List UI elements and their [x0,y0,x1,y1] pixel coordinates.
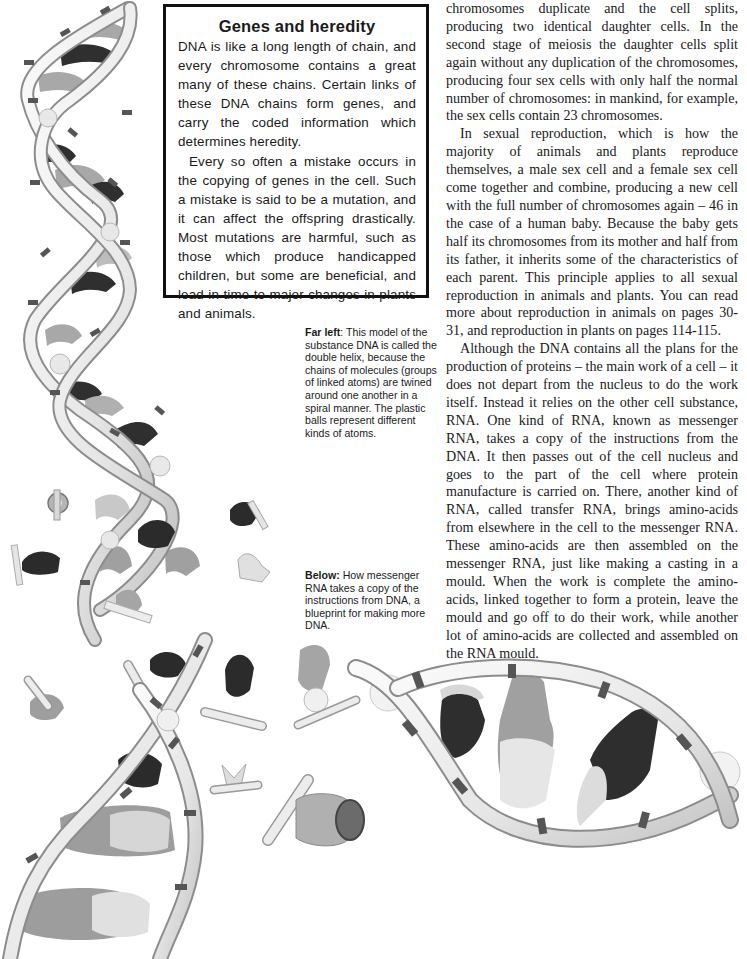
atom-ball-lower [157,709,179,731]
caption-far-left: Far left: This model of the substance DN… [305,326,439,439]
body-text-column: chromosomes duplicate and the cell split… [446,0,738,663]
caption-label: Far left [305,326,340,338]
genes-and-heredity-sidebar-box: Genes and heredity DNA is like a long le… [163,4,429,298]
helix-base-pairs-lower [18,752,175,940]
body-paragraph: chromosomes duplicate and the cell split… [446,0,738,125]
sidebar-box-title: Genes and heredity [178,17,416,36]
messenger-rna-base-pairs [370,674,740,826]
caption-text: : This model of the substance DNA is cal… [305,326,437,439]
sidebar-box-paragraph: Every so often a mistake occurs in the c… [178,152,416,324]
sidebar-box-paragraph: DNA is like a long length of chain, and … [178,37,416,152]
body-paragraph: In sexual reproduction, which is how the… [446,125,738,340]
caption-label: Below: [305,569,340,581]
body-paragraph: Although the DNA contains all the plans … [446,340,738,662]
caption-below: Below: How messenger RNA takes a copy of… [305,569,439,632]
